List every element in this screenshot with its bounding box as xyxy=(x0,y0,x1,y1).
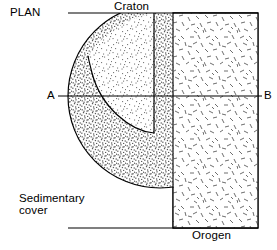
craton-label: Craton xyxy=(114,0,149,12)
sedimentary-cover-label: Sedimentarycover xyxy=(19,192,85,217)
section-endpoint-b-label: B xyxy=(264,89,272,101)
orogen-overlay xyxy=(173,13,258,228)
orogen-label: Orogen xyxy=(192,229,231,241)
plan-view-diagram: PLAN Craton Orogen Sedimentarycover A B xyxy=(0,0,277,250)
section-endpoint-a-label: A xyxy=(47,89,55,101)
sedimentary-cover-label-line2: cover xyxy=(19,204,48,216)
sedimentary-cover-label-line1: Sedimentary xyxy=(19,192,85,204)
plan-view-label: PLAN xyxy=(10,6,40,18)
